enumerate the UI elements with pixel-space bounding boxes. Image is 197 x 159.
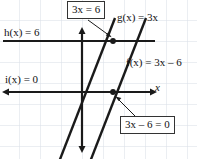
point-marker-3x-equals-6 — [110, 38, 116, 44]
point-marker-3x-minus-6-equals-0 — [110, 89, 116, 95]
callout-box-3x-minus-6-equals-0: 3x – 6 = 0 — [120, 116, 175, 134]
graph-figure: h(x) = 6 i(x) = 0 g(x) = 3x f(x) = 3x – … — [0, 0, 197, 159]
callout-box-3x-equals-6: 3x = 6 — [67, 1, 105, 19]
label-f-function: f(x) = 3x – 6 — [126, 57, 182, 68]
label-h-function: h(x) = 6 — [4, 27, 40, 38]
label-g-function: g(x) = 3x — [117, 12, 158, 23]
label-i-function: i(x) = 0 — [5, 74, 38, 85]
label-x-axis: x — [155, 82, 160, 93]
